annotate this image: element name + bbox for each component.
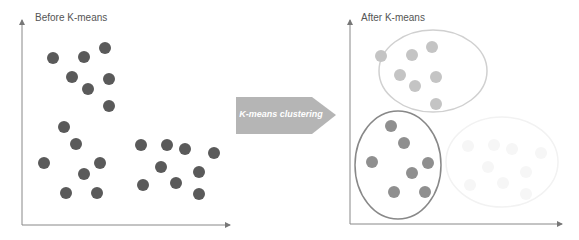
data-point [103, 100, 115, 112]
data-point [103, 73, 115, 85]
data-point [193, 166, 205, 178]
after-clusters [355, 30, 558, 219]
cluster-ellipse [446, 117, 558, 207]
data-point [426, 41, 438, 53]
data-point [179, 143, 191, 155]
data-point [78, 168, 90, 180]
data-point [78, 51, 90, 63]
data-point [398, 137, 410, 149]
data-point [422, 157, 434, 169]
data-point [506, 143, 518, 155]
data-point [47, 52, 59, 64]
data-point [462, 140, 474, 152]
data-point [66, 71, 78, 83]
data-point [497, 177, 509, 189]
data-point [208, 147, 220, 159]
data-point [375, 50, 387, 62]
data-point [409, 80, 421, 92]
data-point [520, 188, 532, 200]
before-points [38, 42, 220, 200]
cluster-3 [446, 117, 558, 207]
data-point [394, 69, 406, 81]
data-point [419, 186, 431, 198]
data-point [520, 166, 532, 178]
data-point [94, 157, 106, 169]
data-point [70, 138, 82, 150]
data-point [137, 179, 149, 191]
data-point [58, 121, 70, 133]
data-point [488, 139, 500, 151]
data-point [535, 147, 547, 159]
data-point [82, 83, 94, 95]
data-point [155, 161, 167, 173]
data-point [91, 187, 103, 199]
data-point [388, 186, 400, 198]
data-point [430, 98, 442, 110]
data-point [99, 42, 111, 54]
kmeans-arrow-label: K-means clustering [236, 109, 326, 119]
data-point [406, 167, 418, 179]
data-point [135, 139, 147, 151]
cluster-2 [355, 111, 441, 219]
data-point [482, 161, 494, 173]
data-point [193, 188, 205, 200]
data-point [170, 177, 182, 189]
data-point [464, 179, 476, 191]
data-point [366, 156, 378, 168]
data-point [430, 71, 442, 83]
cluster-1 [375, 30, 487, 112]
data-point [385, 120, 397, 132]
data-point [38, 157, 50, 169]
data-point [60, 187, 72, 199]
data-point [161, 139, 173, 151]
data-point [406, 49, 418, 61]
